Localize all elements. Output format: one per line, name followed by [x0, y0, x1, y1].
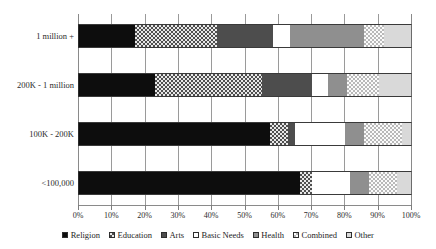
bar-segment-basicneeds[interactable]	[295, 122, 345, 146]
x-axis-tick-60%	[278, 205, 279, 210]
x-axis-tick-70%	[311, 205, 312, 210]
x-axis-tick-label-20%: 20%	[128, 211, 162, 220]
x-axis-tick-100%	[411, 205, 412, 210]
bar-segment-combined[interactable]	[369, 171, 397, 195]
x-axis-tick-20%	[145, 205, 146, 210]
x-axis-tick-label-80%: 80%	[327, 211, 361, 220]
x-axis-tick-40%	[211, 205, 212, 210]
x-axis-tick-90%	[378, 205, 379, 210]
legend-label-basicneeds: Basic Needs	[202, 231, 244, 240]
bar-segment-health[interactable]	[345, 122, 363, 146]
x-axis-tick-0%	[78, 205, 79, 210]
legend-swatch-religion-icon	[62, 232, 68, 238]
x-axis-tick-label-50%: 50%	[228, 211, 262, 220]
legend-swatch-combined-icon	[293, 232, 299, 238]
bar-segment-arts[interactable]	[262, 73, 312, 97]
bar-row[interactable]	[78, 73, 412, 97]
legend-item-combined[interactable]: Combined	[293, 231, 337, 240]
legend-item-religion[interactable]: Religion	[62, 231, 100, 240]
bar-segment-basicneeds[interactable]	[273, 24, 290, 48]
x-axis-tick-label-40%: 40%	[194, 211, 228, 220]
y-axis-label-1: 200K - 1 million	[0, 80, 74, 90]
legend-label-health: Health	[261, 231, 284, 240]
legend-swatch-health-icon	[253, 232, 259, 238]
bar-segment-health[interactable]	[350, 171, 368, 195]
x-axis-tick-label-100%: 100%	[394, 211, 428, 220]
x-axis-tick-label-30%: 30%	[161, 211, 195, 220]
y-axis-label-0: 1 million +	[0, 31, 74, 41]
legend-label-combined: Combined	[302, 231, 337, 240]
x-axis-tick-80%	[344, 205, 345, 210]
bar-segment-combined[interactable]	[347, 73, 379, 97]
bar-segment-education[interactable]	[300, 171, 312, 195]
bar-segment-other[interactable]	[384, 24, 412, 48]
bar-segment-religion[interactable]	[78, 73, 155, 97]
x-axis-tick-50%	[245, 205, 246, 210]
x-axis-tick-30%	[178, 205, 179, 210]
bar-segment-health[interactable]	[290, 24, 363, 48]
legend-item-basicneeds[interactable]: Basic Needs	[193, 231, 244, 240]
bar-row[interactable]	[78, 24, 412, 48]
legend-swatch-basicneeds-icon	[193, 232, 199, 238]
bar-row[interactable]	[78, 122, 412, 146]
bar-segment-education[interactable]	[135, 24, 217, 48]
bar-segment-other[interactable]	[379, 73, 412, 97]
x-axis-tick-label-0%: 0%	[61, 211, 95, 220]
bar-segment-combined[interactable]	[364, 122, 402, 146]
bar-segment-religion[interactable]	[78, 122, 270, 146]
bar-row[interactable]	[78, 171, 412, 195]
legend-item-health[interactable]: Health	[253, 231, 284, 240]
legend-swatch-arts-icon	[161, 232, 167, 238]
bar-segment-arts[interactable]	[288, 122, 295, 146]
legend-label-arts: Arts	[169, 231, 184, 240]
x-axis-tick-label-90%: 90%	[361, 211, 395, 220]
bar-segment-other[interactable]	[402, 122, 412, 146]
bar-segment-religion[interactable]	[78, 24, 135, 48]
legend-label-religion: Religion	[71, 231, 100, 240]
x-axis-tick-10%	[111, 205, 112, 210]
bar-segment-health[interactable]	[328, 73, 346, 97]
legend-item-education[interactable]: Education	[109, 231, 152, 240]
x-axis-tick-label-70%: 70%	[294, 211, 328, 220]
legend-swatch-education-icon	[109, 232, 115, 238]
legend-label-education: Education	[117, 231, 151, 240]
bar-segment-basicneeds[interactable]	[312, 171, 350, 195]
bar-segment-religion[interactable]	[78, 171, 300, 195]
legend-item-arts[interactable]: Arts	[161, 231, 184, 240]
chart-legend: ReligionEducationArtsBasic NeedsHealthCo…	[0, 231, 436, 240]
bar-segment-arts[interactable]	[217, 24, 274, 48]
stacked-bar-chart: 1 million +200K - 1 million100K - 200K<1…	[0, 0, 436, 249]
y-axis-label-2: 100K - 200K	[0, 129, 74, 139]
bar-segment-basicneeds[interactable]	[312, 73, 329, 97]
plot-area	[78, 14, 412, 205]
bar-segment-education[interactable]	[155, 73, 262, 97]
bar-segment-combined[interactable]	[364, 24, 384, 48]
bar-segment-other[interactable]	[397, 171, 412, 195]
x-axis-tick-label-10%: 10%	[94, 211, 128, 220]
legend-item-other[interactable]: Other	[346, 231, 374, 240]
y-axis-label-3: <100,000	[0, 178, 74, 188]
legend-swatch-other-icon	[346, 232, 352, 238]
bar-segment-education[interactable]	[270, 122, 288, 146]
x-axis-tick-label-60%: 60%	[261, 211, 295, 220]
legend-label-other: Other	[354, 231, 373, 240]
